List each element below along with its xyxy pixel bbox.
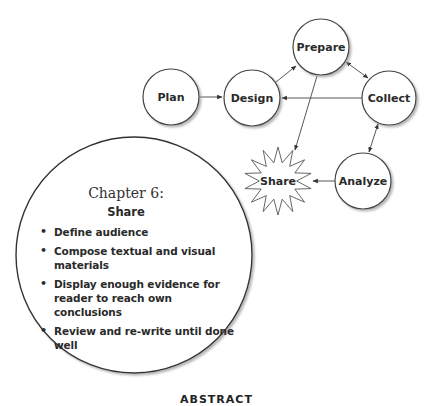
node-collect: Collect xyxy=(362,71,416,125)
node-prepare-label: Prepare xyxy=(296,41,345,54)
edge-collect-analyze xyxy=(369,124,378,152)
bullet-item: Display enough evidence for reader to re… xyxy=(40,277,240,319)
node-prepare: Prepare xyxy=(293,19,349,75)
bullet-item: Define audience xyxy=(40,225,240,239)
node-analyze: Analyze xyxy=(335,153,391,209)
bullet-item: Compose textual and visual materials xyxy=(40,244,240,272)
node-design: Design xyxy=(224,70,280,126)
edge-design-prepare xyxy=(276,66,296,82)
chapter-subtitle: Share xyxy=(40,205,212,219)
node-design-label: Design xyxy=(231,92,274,105)
node-analyze-label: Analyze xyxy=(339,175,388,188)
chapter-summary: Chapter 6: Share Define audience Compose… xyxy=(40,185,240,357)
footer-label: ABSTRACT xyxy=(180,393,253,406)
node-collect-label: Collect xyxy=(368,92,410,105)
edge-prepare-share xyxy=(295,76,317,150)
chapter-title: Chapter 6: xyxy=(40,185,212,201)
bullet-item: Review and re-write until done well xyxy=(40,324,240,352)
node-share: Share xyxy=(245,147,311,215)
node-share-label: Share xyxy=(260,175,296,188)
edge-prepare-collect xyxy=(346,62,368,78)
chapter-bullet-list: Define audience Compose textual and visu… xyxy=(40,225,240,352)
node-plan-label: Plan xyxy=(157,91,184,104)
node-plan: Plan xyxy=(143,69,199,125)
